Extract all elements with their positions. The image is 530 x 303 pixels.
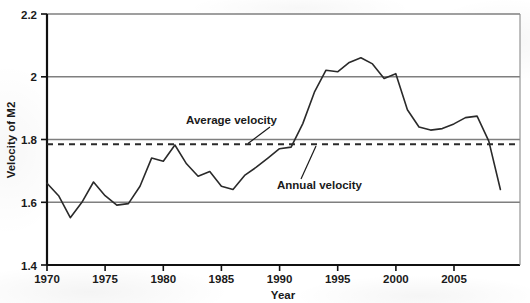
y-tick-label-2.2: 2.2 [21,9,37,21]
x-tick-label-1975: 1975 [92,273,118,285]
y-tick-label-2: 2 [31,71,37,83]
x-tick-label-1980: 1980 [151,273,177,285]
x-tick-label-1995: 1995 [325,273,351,285]
y-tick-label-1.6: 1.6 [21,197,37,209]
x-tick-label-1985: 1985 [209,273,235,285]
x-tick-label-2005: 2005 [441,273,467,285]
average-velocity-label: Average velocity [186,114,278,126]
x-tick-label-1970: 1970 [34,273,60,285]
x-tick-label-2000: 2000 [383,273,409,285]
annual-velocity-label: Annual velocity [277,179,363,191]
y-tick-label-1.8: 1.8 [21,134,38,146]
y-tick-label-1.4: 1.4 [21,260,38,272]
y-axis-title: Velocity of M2 [5,102,17,179]
x-tick-label-1990: 1990 [267,273,293,285]
chart-figure: 2.2 2 1.8 1.6 1.4 1970 1975 1980 1985 19… [0,0,530,303]
velocity-of-m2-line-chart: 2.2 2 1.8 1.6 1.4 1970 1975 1980 1985 19… [0,0,530,303]
x-axis-title: Year [271,289,296,301]
